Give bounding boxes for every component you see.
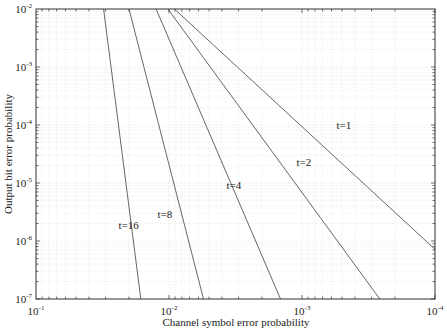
curve-labels: t=1t=2t=4t=8t=16 [118, 119, 351, 231]
y-tick-label: 10-4 [15, 118, 32, 131]
y-tick-label: 10-5 [15, 176, 32, 189]
x-tick-label: 10-4 [427, 304, 444, 317]
curve-label: t=2 [296, 156, 311, 168]
curves [104, 9, 435, 299]
ticks [36, 9, 435, 299]
y-tick-label: 10-2 [15, 2, 32, 15]
plot-frame [36, 9, 435, 299]
y-axis-label: Output bit error probability [2, 93, 14, 214]
chart: 10-110-210-310-410-210-310-410-510-610-7… [0, 0, 447, 332]
grid [36, 9, 435, 299]
curve-label: t=8 [158, 208, 173, 220]
curve-label: t=4 [226, 179, 241, 191]
curve-t-16 [104, 9, 141, 299]
y-tick-label: 10-7 [15, 292, 32, 305]
y-tick-label: 10-3 [15, 60, 32, 73]
curve-label: t=1 [337, 119, 352, 131]
curve-t-2 [168, 9, 380, 299]
curve-t-8 [129, 9, 204, 299]
x-axis-label: Channel symbol error probability [163, 316, 310, 328]
tick-labels: 10-110-210-310-410-210-310-410-510-610-7 [15, 2, 444, 317]
curve-label: t=16 [118, 219, 139, 231]
x-tick-label: 10-1 [28, 304, 45, 317]
y-tick-label: 10-6 [15, 234, 32, 247]
